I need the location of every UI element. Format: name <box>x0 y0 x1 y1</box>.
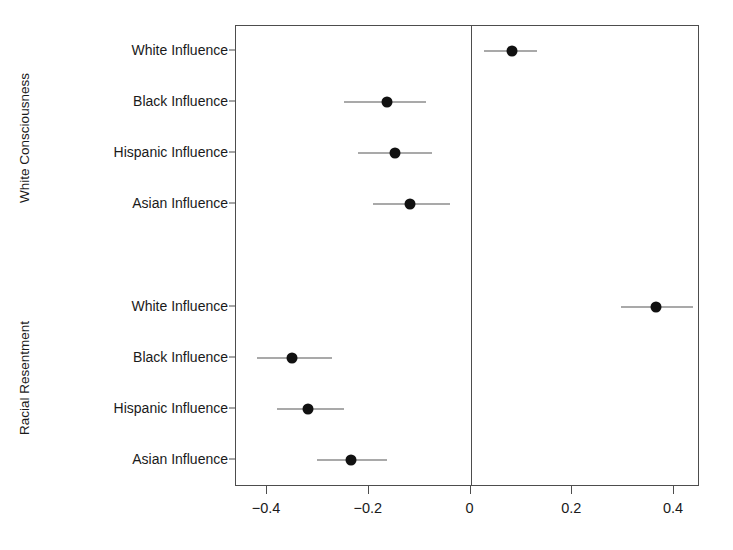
estimate-point-racial-resentment-asian-influence <box>346 455 357 466</box>
x-tick-label: 0.4 <box>663 500 683 516</box>
y-label-wc-black-influence: Black Influence <box>133 93 228 109</box>
y-label-rr-white-influence: White Influence <box>132 298 229 314</box>
y-label-wc-asian-influence: Asian Influence <box>132 195 228 211</box>
y-label-wc-hispanic-influence: Hispanic Influence <box>114 144 228 160</box>
x-tick <box>470 486 471 494</box>
estimate-point-white-consciousness-asian-influence <box>405 199 416 210</box>
y-label-rr-black-influence: Black Influence <box>133 349 228 365</box>
x-tick-label: −0.2 <box>353 500 382 516</box>
coefficient-plot: White Consciousness Racial Resentment Wh… <box>0 0 733 550</box>
x-tick <box>673 486 674 494</box>
x-tick-label: −0.4 <box>252 500 281 516</box>
y-axis-labels: White Influence Black Influence Hispanic… <box>0 0 228 550</box>
x-tick-label: 0.2 <box>561 500 581 516</box>
plot-panel <box>235 25 699 486</box>
estimate-point-racial-resentment-hispanic-influence <box>302 404 313 415</box>
data-marks-layer <box>236 26 698 485</box>
y-label-wc-white-influence: White Influence <box>132 42 229 58</box>
x-tick-label: 0 <box>465 500 473 516</box>
x-tick <box>571 486 572 494</box>
x-tick <box>368 486 369 494</box>
estimate-point-white-consciousness-white-influence <box>507 46 518 57</box>
estimate-point-racial-resentment-white-influence <box>650 302 661 313</box>
estimate-point-white-consciousness-hispanic-influence <box>389 148 400 159</box>
y-label-rr-asian-influence: Asian Influence <box>132 451 228 467</box>
x-tick <box>266 486 267 494</box>
y-label-rr-hispanic-influence: Hispanic Influence <box>114 400 228 416</box>
estimate-point-racial-resentment-black-influence <box>287 353 298 364</box>
estimate-point-white-consciousness-black-influence <box>381 97 392 108</box>
